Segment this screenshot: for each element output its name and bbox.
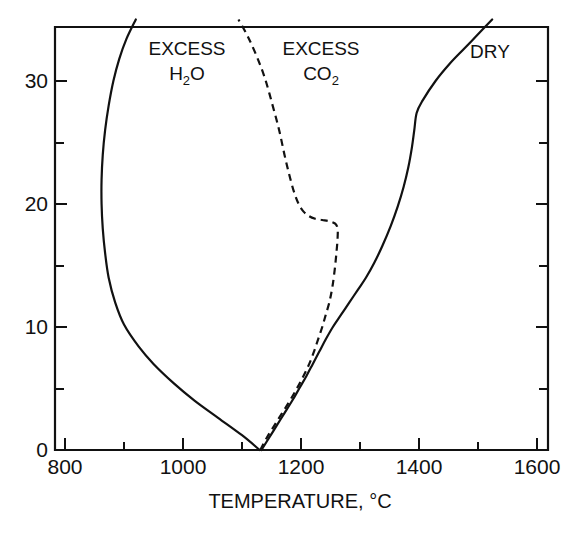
y-tick-label-20: 20 [25, 192, 48, 215]
dry-label: DRY [470, 41, 510, 62]
y-tick-label-30: 30 [25, 69, 48, 92]
y-axis-minor-ticks-left [55, 143, 64, 389]
h2o-H: H [169, 63, 183, 84]
h2o-sub-2: 2 [183, 73, 190, 88]
x-tick-label-1400: 1400 [396, 455, 443, 478]
x-axis-major-ticks [65, 438, 537, 450]
chart-figure: 800 1000 1200 1400 1600 0 10 20 30 TEMPE… [0, 0, 578, 538]
annotation-excess-co2: EXCESS CO2 [282, 38, 359, 88]
y-tick-label-10: 10 [25, 315, 48, 338]
excess-h2o-label-line2: H2O [169, 63, 205, 88]
co2-CO: CO [303, 63, 332, 84]
x-tick-label-1000: 1000 [160, 455, 207, 478]
excess-co2-label-line2: CO2 [303, 63, 339, 88]
y-tick-label-0: 0 [36, 438, 48, 461]
series-line-excess-h2o [101, 20, 259, 451]
co2-sub-2: 2 [332, 73, 339, 88]
y-axis-ticks-right [536, 81, 548, 389]
excess-co2-label-line1: EXCESS [282, 38, 359, 59]
x-tick-label-1600: 1600 [514, 455, 561, 478]
h2o-O: O [190, 63, 205, 84]
x-axis-title: TEMPERATURE, °C [208, 490, 391, 512]
series-line-dry [261, 20, 492, 451]
x-tick-label-800: 800 [47, 455, 82, 478]
chart-plot-area: 800 1000 1200 1400 1600 0 10 20 30 TEMPE… [0, 0, 578, 538]
annotation-excess-h2o: EXCESS H2O [148, 38, 225, 88]
x-tick-label-1200: 1200 [278, 455, 325, 478]
series-line-excess-co2 [238, 20, 337, 451]
excess-h2o-label-line1: EXCESS [148, 38, 225, 59]
